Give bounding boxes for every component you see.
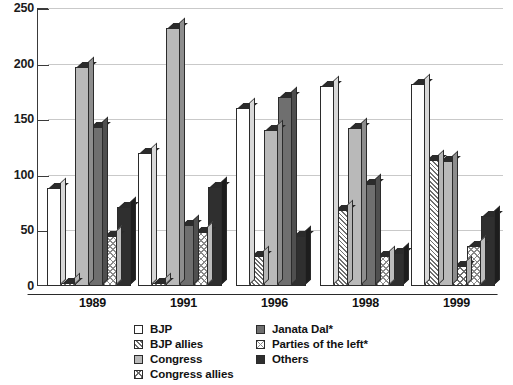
bar-1989-bjpallies	[61, 283, 75, 286]
bar-side-face	[151, 142, 157, 285]
x-tick-label-1999: 1999	[443, 296, 470, 310]
legend-item-congress[interactable]: Congress	[134, 352, 234, 366]
legend-column-right: Janata Dal*Parties of the left*Others	[256, 322, 368, 367]
chart-floor	[27, 286, 507, 295]
bar-side-face	[466, 255, 472, 285]
bar-1989-bjp	[47, 188, 61, 286]
legend-item-others[interactable]: Others	[256, 352, 368, 366]
bar-side-face	[424, 73, 430, 285]
x-tick-label-1989: 1989	[79, 296, 106, 310]
y-tick-label-50: 50	[0, 223, 34, 237]
bar-side-face	[88, 56, 94, 285]
legend-label: Others	[272, 353, 308, 365]
legend-item-congressallies[interactable]: Congress allies	[134, 367, 234, 381]
legend-swatch-icon	[134, 355, 143, 364]
legend-swatch-icon	[134, 325, 143, 334]
bar-side-face	[60, 178, 66, 285]
y-tick-label-150: 150	[0, 112, 34, 126]
bar-1998-bjp	[320, 86, 334, 286]
bar-side-face	[438, 150, 444, 285]
y-axis: 050100150200250	[0, 0, 34, 318]
y-tick-label-0: 0	[0, 279, 34, 293]
bar-side-face	[193, 214, 199, 285]
bar-1996-bjp	[236, 108, 250, 286]
legend-label: Parties of the left*	[272, 338, 368, 350]
bar-side-face	[102, 116, 108, 285]
legend-swatch-icon	[134, 340, 143, 349]
legend-label: Janata Dal*	[272, 323, 333, 335]
plot-area	[48, 8, 503, 286]
y-tick-label-100: 100	[0, 168, 34, 182]
bar-side-face	[361, 118, 367, 285]
bar-1991-congress	[166, 28, 180, 286]
x-tick-label-1996: 1996	[261, 296, 288, 310]
legend-swatch-icon	[256, 355, 265, 364]
bar-side-face	[347, 200, 353, 285]
legend-item-janatadal[interactable]: Janata Dal*	[256, 322, 368, 336]
y-tick-label-250: 250	[0, 1, 34, 15]
bar-side-face	[494, 205, 500, 285]
legend-item-bjpallies[interactable]: BJP allies	[134, 337, 234, 351]
bar-side-face	[452, 151, 458, 285]
bar-1999-bjp	[411, 84, 425, 286]
grouped-bar-chart: 050100150200250 19891991199619981999 BJP…	[0, 0, 513, 385]
y-tick-label-200: 200	[0, 57, 34, 71]
bar-side-face	[375, 173, 381, 285]
legend-item-partiesoftheleft[interactable]: Parties of the left*	[256, 337, 368, 351]
bar-1989-congress	[75, 67, 89, 286]
bar-side-face	[277, 120, 283, 285]
bar-side-face	[130, 196, 136, 285]
bar-1991-bjp	[138, 153, 152, 286]
plot-wrapper: 050100150200250	[0, 0, 513, 318]
legend-swatch-icon	[256, 340, 265, 349]
chart-legend: BJPBJP alliesCongressCongress allies Jan…	[0, 322, 513, 382]
legend-item-bjp[interactable]: BJP	[134, 322, 234, 336]
bar-side-face	[221, 176, 227, 285]
bar-side-face	[116, 225, 122, 285]
legend-label: BJP allies	[150, 338, 203, 350]
legend-label: BJP	[150, 323, 172, 335]
bar-side-face	[207, 221, 213, 285]
legend-swatch-icon	[256, 325, 265, 334]
bar-side-face	[249, 97, 255, 285]
legend-label: Congress allies	[150, 368, 234, 380]
bar-side-face	[263, 245, 269, 285]
bar-side-face	[480, 235, 486, 285]
legend-column-left: BJPBJP alliesCongressCongress allies	[134, 322, 234, 382]
x-tick-label-1998: 1998	[352, 296, 379, 310]
bar-side-face	[305, 225, 311, 285]
x-tick-label-1991: 1991	[170, 296, 197, 310]
bar-side-face	[291, 86, 297, 285]
bar-side-face	[389, 245, 395, 285]
bar-side-face	[333, 75, 339, 285]
bar-side-face	[403, 242, 409, 285]
bar-1991-bjpallies	[152, 283, 166, 286]
bar-side-face	[179, 17, 185, 285]
legend-swatch-icon	[134, 370, 143, 379]
legend-label: Congress	[150, 353, 202, 365]
x-axis: 19891991199619981999	[48, 296, 503, 318]
